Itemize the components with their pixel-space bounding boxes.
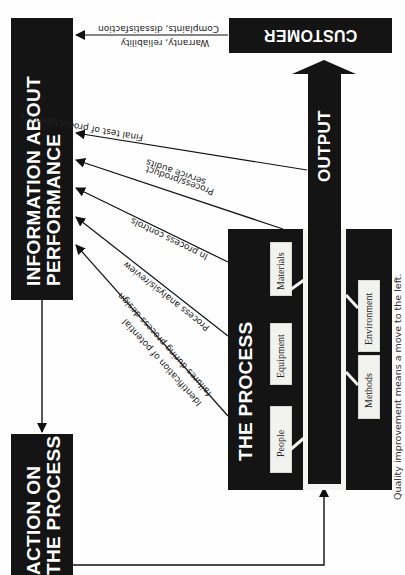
caption: Quality improvement means a move to the … — [392, 273, 403, 500]
factor-connectors — [0, 0, 405, 575]
quality-feedback-diagram: CUSTOMER Complaints, dissatisfaction War… — [0, 0, 405, 575]
